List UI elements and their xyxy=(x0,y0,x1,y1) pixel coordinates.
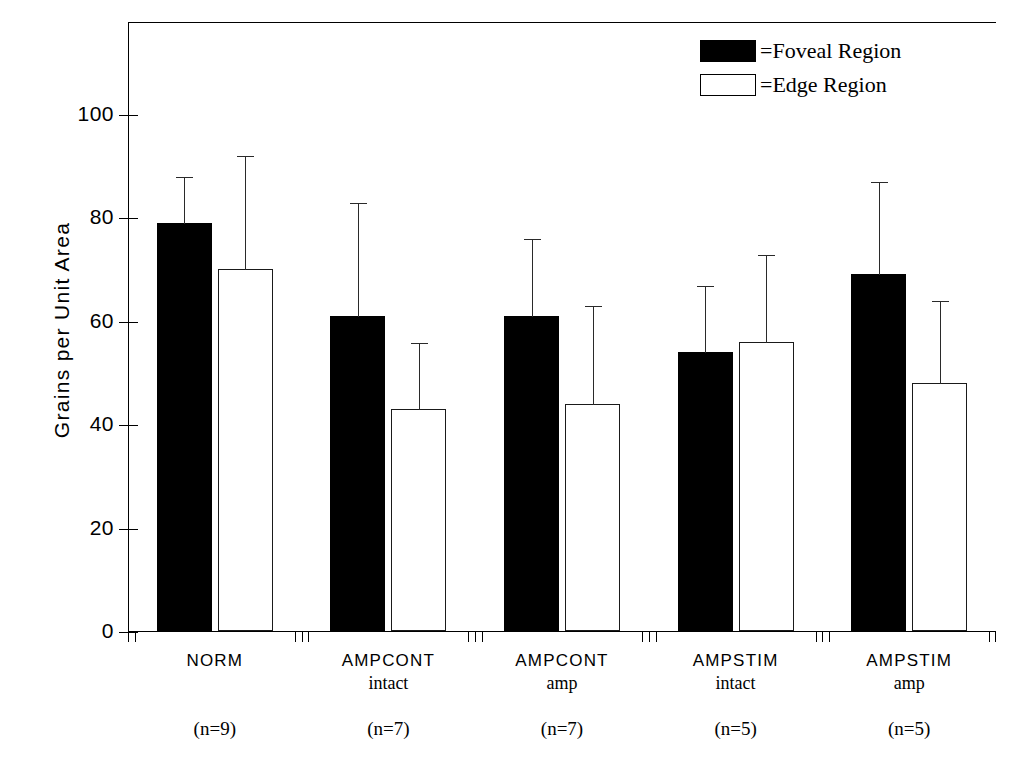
bar-foveal-2 xyxy=(504,316,559,631)
bar-chart-figure: Grains per Unit Area 020406080100 NORM(n… xyxy=(0,0,1015,761)
x-tick-boundary xyxy=(302,631,303,642)
x-category-sample-size: (n=7) xyxy=(288,717,488,741)
legend-swatch-edge xyxy=(700,74,756,96)
x-tick-minor xyxy=(295,631,296,642)
x-category-sample-size: (n=5) xyxy=(636,717,836,741)
x-tick-minor xyxy=(135,631,136,642)
x-tick-minor xyxy=(482,631,483,642)
x-category-subname: intact xyxy=(288,672,488,695)
bar-foveal-1 xyxy=(330,316,385,631)
error-bar-stem-foveal-4 xyxy=(879,182,880,275)
error-bar-cap-foveal-2 xyxy=(524,239,541,240)
x-category-label-group-3: AMPSTIMintact(n=5) xyxy=(636,650,836,741)
bar-edge-0 xyxy=(218,269,273,631)
error-bar-cap-edge-4 xyxy=(932,301,949,302)
x-category-subname: amp xyxy=(462,672,662,695)
x-category-name: NORM xyxy=(115,650,315,672)
bar-foveal-4 xyxy=(851,274,906,631)
bar-foveal-3 xyxy=(678,352,733,631)
y-tick-mark xyxy=(119,529,138,530)
x-tick-minor xyxy=(816,631,817,642)
x-category-name: AMPSTIM xyxy=(636,650,836,672)
y-tick-label: 20 xyxy=(90,516,114,540)
x-axis-line xyxy=(128,631,996,632)
x-category-label-group-0: NORM(n=9) xyxy=(115,650,315,741)
y-axis-title: Grains per Unit Area xyxy=(50,120,74,540)
bar-edge-4 xyxy=(912,383,967,631)
y-tick-mark xyxy=(119,425,138,426)
y-tick-label: 100 xyxy=(77,102,114,126)
x-tick-boundary xyxy=(822,631,823,642)
error-bar-cap-edge-3 xyxy=(758,255,775,256)
x-tick-boundary xyxy=(475,631,476,642)
x-tick-minor xyxy=(642,631,643,642)
legend-item-edge: =Edge Region xyxy=(700,70,950,100)
plot-frame-left xyxy=(128,22,129,632)
x-tick-minor xyxy=(829,631,830,642)
y-tick-label: 40 xyxy=(90,412,114,436)
error-bar-stem-foveal-0 xyxy=(184,177,185,224)
error-bar-cap-foveal-1 xyxy=(350,203,367,204)
error-bar-cap-edge-2 xyxy=(585,306,602,307)
error-bar-stem-edge-3 xyxy=(766,255,767,343)
bar-edge-2 xyxy=(565,404,620,631)
x-category-name: AMPCONT xyxy=(288,650,488,672)
error-bar-stem-edge-0 xyxy=(245,156,246,270)
y-tick-label: 0 xyxy=(102,619,114,643)
x-category-label-group-1: AMPCONTintact(n=7) xyxy=(288,650,488,741)
error-bar-cap-foveal-3 xyxy=(697,286,714,287)
y-tick-label: 60 xyxy=(90,309,114,333)
x-category-sample-size: (n=7) xyxy=(462,717,662,741)
x-category-subname: amp xyxy=(809,672,1009,695)
y-tick-mark xyxy=(119,322,138,323)
y-tick-label: 80 xyxy=(90,205,114,229)
error-bar-cap-edge-1 xyxy=(411,343,428,344)
error-bar-stem-foveal-2 xyxy=(532,239,533,317)
y-tick-mark xyxy=(119,218,138,219)
x-category-name: AMPSTIM xyxy=(809,650,1009,672)
bar-edge-3 xyxy=(739,342,794,631)
legend-swatch-foveal xyxy=(700,40,756,62)
error-bar-stem-edge-4 xyxy=(940,301,941,384)
x-tick-minor xyxy=(468,631,469,642)
plot-frame-top xyxy=(128,22,996,23)
x-tick-boundary xyxy=(128,631,129,642)
legend-label: =Edge Region xyxy=(760,72,887,98)
x-category-subname: intact xyxy=(636,672,836,695)
x-category-sample-size: (n=9) xyxy=(115,717,315,741)
x-category-label-group-2: AMPCONTamp(n=7) xyxy=(462,650,662,741)
bar-foveal-0 xyxy=(157,223,212,631)
error-bar-stem-edge-1 xyxy=(419,343,420,410)
error-bar-stem-foveal-1 xyxy=(358,203,359,317)
x-tick-boundary xyxy=(995,631,996,642)
error-bar-cap-edge-0 xyxy=(237,156,254,157)
error-bar-stem-foveal-3 xyxy=(705,286,706,353)
error-bar-cap-foveal-4 xyxy=(871,182,888,183)
error-bar-stem-edge-2 xyxy=(593,306,594,404)
x-category-label-group-4: AMPSTIMamp(n=5) xyxy=(809,650,1009,741)
plot-area: 020406080100 xyxy=(128,22,996,632)
x-tick-boundary xyxy=(649,631,650,642)
legend: =Foveal Region=Edge Region xyxy=(700,36,950,104)
x-tick-minor xyxy=(656,631,657,642)
x-category-name: AMPCONT xyxy=(462,650,662,672)
legend-label: =Foveal Region xyxy=(760,38,901,64)
legend-item-foveal: =Foveal Region xyxy=(700,36,950,66)
x-category-sample-size: (n=5) xyxy=(809,717,1009,741)
x-tick-minor xyxy=(308,631,309,642)
x-tick-minor xyxy=(989,631,990,642)
y-tick-mark xyxy=(119,115,138,116)
error-bar-cap-foveal-0 xyxy=(176,177,193,178)
bar-edge-1 xyxy=(391,409,446,631)
